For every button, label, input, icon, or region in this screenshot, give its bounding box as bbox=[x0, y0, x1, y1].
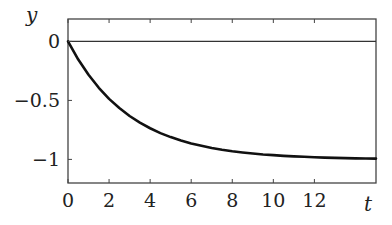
y-tick-label: −1 bbox=[32, 148, 60, 170]
x-tick-label: 12 bbox=[302, 189, 326, 211]
x-tick-label: 0 bbox=[62, 189, 74, 211]
x-tick-label: 2 bbox=[103, 189, 115, 211]
y-tick-label: −0.5 bbox=[14, 89, 60, 111]
y-axis-ticks: 0−0.5−1 bbox=[14, 30, 72, 170]
plot-area bbox=[68, 19, 376, 183]
data-series-line bbox=[68, 41, 376, 158]
chart: 024681012 0−0.5−1 t y bbox=[0, 0, 392, 225]
y-axis-label: y bbox=[25, 3, 38, 27]
x-tick-label: 6 bbox=[185, 189, 197, 211]
x-axis-ticks: 024681012 bbox=[62, 19, 327, 211]
y-tick-label: 0 bbox=[48, 30, 60, 52]
x-tick-label: 8 bbox=[226, 189, 238, 211]
x-tick-label: 4 bbox=[144, 189, 156, 211]
x-axis-label: t bbox=[364, 192, 373, 216]
x-tick-label: 10 bbox=[261, 189, 285, 211]
